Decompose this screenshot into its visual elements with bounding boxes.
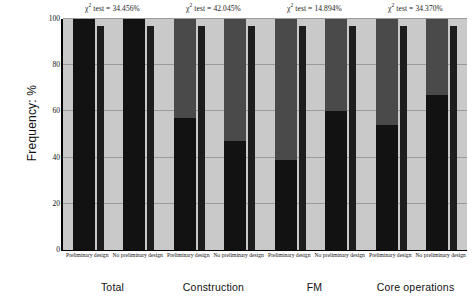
category-label: No preliminary design [113, 252, 164, 259]
bar [376, 19, 398, 250]
bar [400, 26, 407, 250]
bar-segment-lower [73, 19, 95, 250]
category-label: No preliminary design [416, 252, 467, 259]
category-label: No preliminary design [214, 252, 265, 259]
bar [198, 26, 205, 250]
category-label: Preliminary design [264, 252, 315, 259]
group-label-total: Total [62, 281, 163, 293]
chi-square-label: χ2 test = 34.370% [365, 2, 466, 13]
chi-square-label: χ2 test = 42.045% [163, 2, 264, 13]
bar-segment-lower [325, 111, 347, 250]
chi-test-value: test = 14.894% [293, 4, 342, 13]
bar-segment-lower [349, 26, 356, 250]
bar-segment-lower [224, 141, 246, 250]
y-tick-label: 80 [24, 60, 60, 69]
bar [174, 19, 196, 250]
bar [73, 19, 95, 250]
bar-segment-lower [174, 118, 196, 250]
x-axis-line [62, 250, 467, 251]
y-axis-ticks: 020406080100 [18, 0, 60, 304]
bar-segment-lower [426, 95, 448, 250]
chi-square-label: χ2 test = 14.894% [264, 2, 365, 13]
bar-segment-upper [224, 19, 246, 141]
category-label: Preliminary design [163, 252, 214, 259]
y-tick-label: 0 [24, 245, 60, 254]
bar [123, 19, 145, 250]
y-tick-label: 20 [24, 199, 60, 208]
chi-square-label: χ2 test = 34.456% [62, 2, 163, 13]
bar-segment-upper [174, 19, 196, 118]
bar-segment-lower [400, 26, 407, 250]
group-label-fm: FM [264, 281, 365, 293]
chi-square-annotations: χ2 test = 34.456%χ2 test = 42.045%χ2 tes… [62, 0, 466, 17]
y-tick-label: 60 [24, 106, 60, 115]
bar [248, 26, 255, 250]
bar-segment-lower [248, 26, 255, 250]
bar [299, 26, 306, 250]
y-axis-line [61, 19, 62, 251]
bar [147, 26, 154, 250]
category-label: Preliminary design [365, 252, 416, 259]
bar-segment-lower [450, 26, 457, 250]
bar [450, 26, 457, 250]
group-label-core-operations: Core operations [365, 281, 466, 293]
chi-test-value: test = 34.370% [394, 4, 443, 13]
bar-segment-lower [97, 26, 104, 250]
chi-test-value: test = 34.456% [91, 4, 140, 13]
plot-area [62, 19, 467, 250]
chi-test-value: test = 42.045% [192, 4, 241, 13]
y-tick-label: 40 [24, 153, 60, 162]
bar-segment-upper [376, 19, 398, 125]
chart-figure: χ2 test = 34.456%χ2 test = 42.045%χ2 tes… [0, 0, 472, 304]
bar-segment-upper [325, 19, 347, 111]
bar [426, 19, 448, 250]
x-axis-category-labels: Preliminary designNo preliminary designP… [62, 252, 466, 284]
category-label: No preliminary design [315, 252, 366, 259]
bar-segment-lower [376, 125, 398, 250]
bar [97, 26, 104, 250]
bar-segment-lower [147, 26, 154, 250]
bar [275, 19, 297, 250]
category-label: Preliminary design [62, 252, 113, 259]
bar-segment-lower [275, 160, 297, 250]
y-tick-label: 100 [24, 14, 60, 23]
bar-segment-upper [275, 19, 297, 160]
x-axis-group-labels: TotalConstructionFMCore operations [62, 281, 466, 301]
bar-segment-lower [123, 19, 145, 250]
bar-segment-lower [299, 26, 306, 250]
bar [325, 19, 347, 250]
group-label-construction: Construction [163, 281, 264, 293]
bar-segment-upper [426, 19, 448, 95]
bar-segment-lower [198, 26, 205, 250]
bar [224, 19, 246, 250]
bar [349, 26, 356, 250]
